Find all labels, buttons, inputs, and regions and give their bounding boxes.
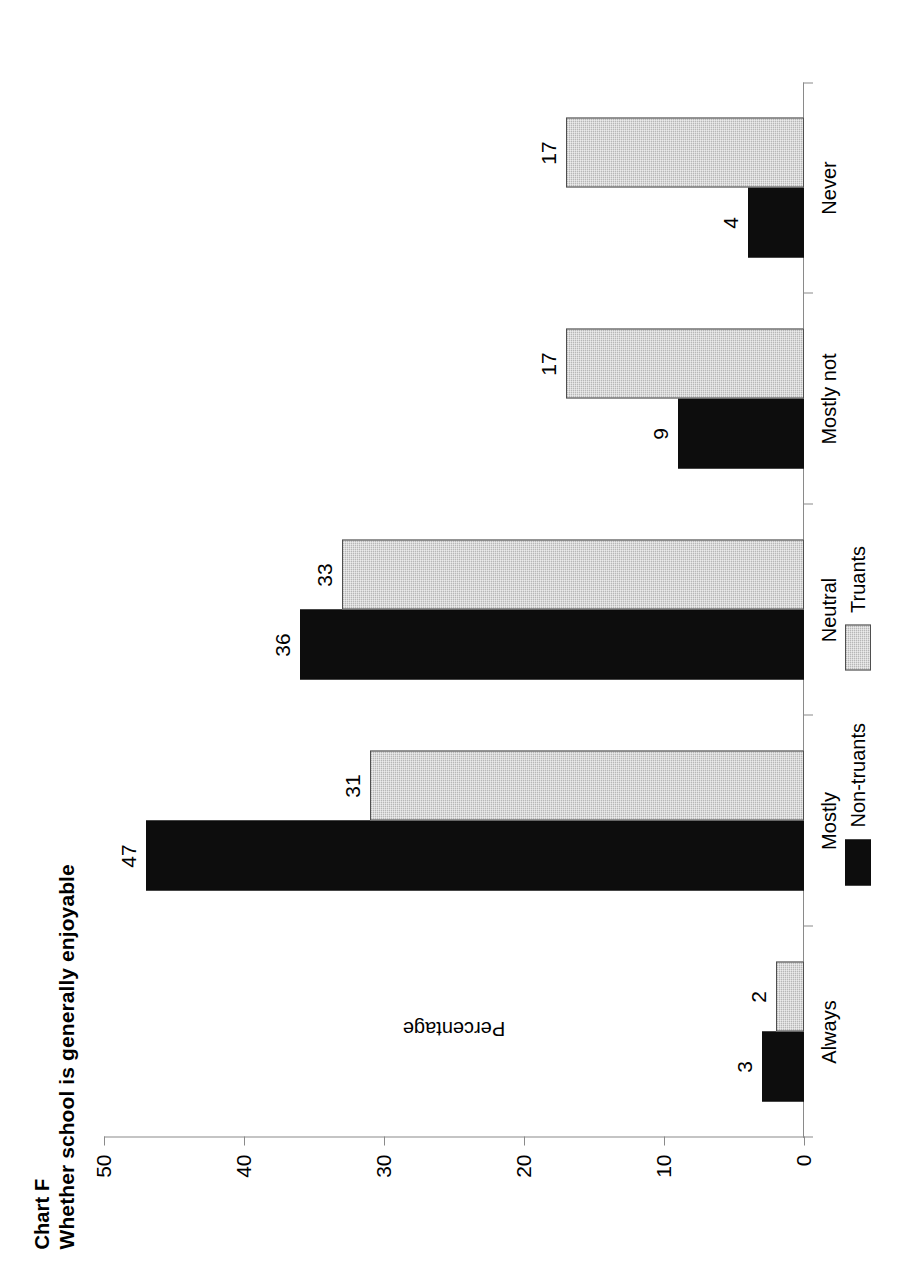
chart-title: Whether school is generally enjoyable <box>54 864 80 1249</box>
y-tick-label-30: 30 <box>372 1154 396 1177</box>
x-tick-2 <box>803 714 813 715</box>
legend-swatch-non-truants-icon <box>845 839 871 885</box>
x-tick-0 <box>803 1136 813 1137</box>
bar-group-always: 3 2 Always <box>104 926 804 1137</box>
x-tick-4 <box>803 292 813 293</box>
bar-value-never-non-truants: 4 <box>719 217 743 229</box>
bar-always-non-truants[interactable]: 3 <box>762 1032 804 1102</box>
bar-value-always-non-truants: 3 <box>733 1061 757 1073</box>
bar-mostly-truants[interactable]: 31 <box>370 751 804 821</box>
bar-value-mostly-not-non-truants: 9 <box>649 428 673 440</box>
bar-value-always-truants: 2 <box>747 991 771 1003</box>
legend-label-truants: Truants <box>847 545 870 612</box>
bar-value-neutral-truants: 33 <box>313 563 337 586</box>
bar-group-mostly-not: 9 17 Mostly not <box>104 293 804 504</box>
bar-value-mostly-non-truants: 47 <box>117 844 141 867</box>
y-tick-label-50: 50 <box>92 1154 116 1177</box>
bar-never-non-truants[interactable]: 4 <box>748 188 804 258</box>
category-label-mostly-not: Mostly not <box>818 353 841 444</box>
bar-value-never-truants: 17 <box>537 141 561 164</box>
y-tick-label-20: 20 <box>512 1154 536 1177</box>
x-tick-3 <box>803 503 813 504</box>
y-tick-label-10: 10 <box>652 1154 676 1177</box>
category-label-always: Always <box>818 1000 841 1063</box>
category-label-never: Never <box>818 161 841 214</box>
y-tick-label-0: 0 <box>792 1154 816 1166</box>
bar-mostly-non-truants[interactable]: 47 <box>146 821 804 891</box>
chart-label: Chart F <box>30 864 54 1249</box>
bar-never-truants[interactable]: 17 <box>566 118 804 188</box>
bar-neutral-non-truants[interactable]: 36 <box>300 610 804 680</box>
bar-mostly-not-truants[interactable]: 17 <box>566 329 804 399</box>
category-label-mostly: Mostly <box>818 792 841 850</box>
bar-neutral-truants[interactable]: 33 <box>342 540 804 610</box>
legend-swatch-truants-icon <box>845 625 871 671</box>
bar-group-never: 4 17 Never <box>104 82 804 293</box>
chart-figure: Chart F Whether school is generally enjo… <box>0 0 916 1275</box>
bar-value-mostly-not-truants: 17 <box>537 352 561 375</box>
x-tick-5 <box>803 82 813 83</box>
legend-item-truants[interactable]: Truants <box>845 545 871 670</box>
bar-group-neutral: 36 33 Neutral <box>104 504 804 715</box>
legend-label-non-truants: Non-truants <box>847 723 870 828</box>
x-tick-1 <box>803 925 813 926</box>
rotated-page-stage: Chart F Whether school is generally enjo… <box>0 0 916 1275</box>
bar-mostly-not-non-truants[interactable]: 9 <box>678 399 804 469</box>
legend-item-non-truants[interactable]: Non-truants <box>845 723 871 886</box>
bar-always-truants[interactable]: 2 <box>776 962 804 1032</box>
chart-title-block: Chart F Whether school is generally enjo… <box>30 864 80 1249</box>
plot-area: 50 40 30 20 10 0 Percentag <box>104 82 804 1137</box>
bar-value-mostly-truants: 31 <box>341 774 365 797</box>
bar-group-mostly: 47 31 Mostly <box>104 715 804 926</box>
category-label-neutral: Neutral <box>818 577 841 641</box>
y-tick-label-40: 40 <box>232 1154 256 1177</box>
bar-value-neutral-non-truants: 36 <box>271 633 295 656</box>
chart-legend: Non-truants Truants <box>845 545 871 885</box>
